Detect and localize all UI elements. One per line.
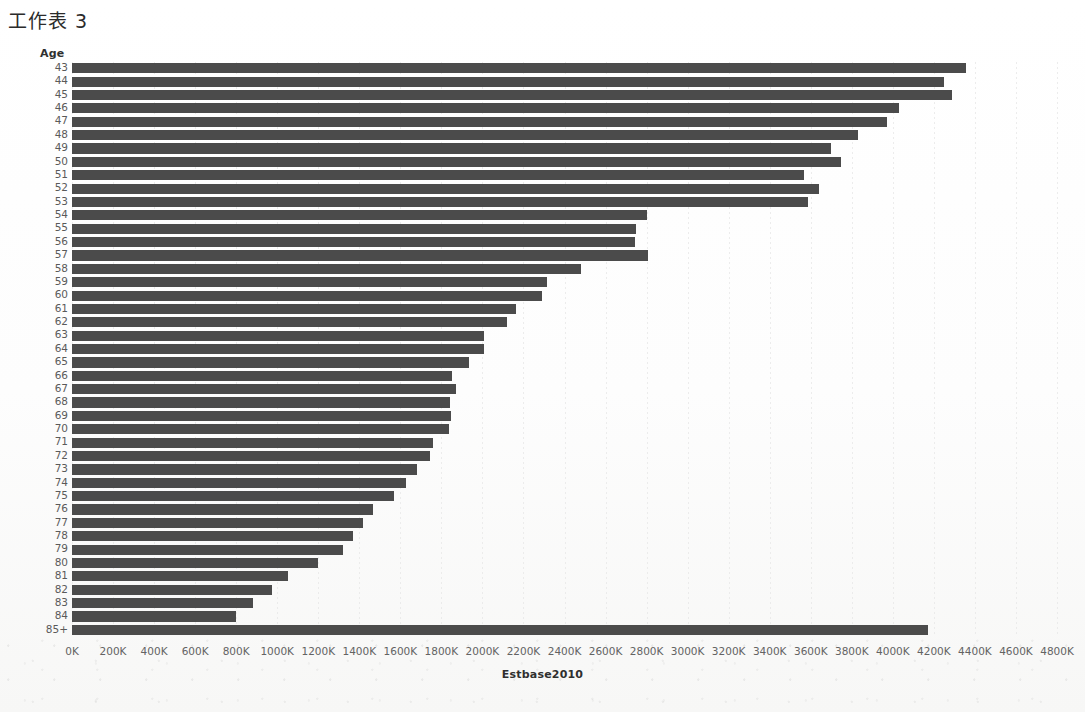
bar[interactable] xyxy=(72,277,547,287)
x-axis-tick-label: 1600K xyxy=(384,645,418,657)
bar-row[interactable]: 51 xyxy=(72,169,1057,182)
bar[interactable] xyxy=(72,143,831,153)
x-axis-title: Estbase2010 xyxy=(0,668,1085,681)
bar[interactable] xyxy=(72,224,636,234)
bar-row[interactable]: 84 xyxy=(72,610,1057,623)
bar[interactable] xyxy=(72,625,928,635)
bar[interactable] xyxy=(72,317,507,327)
bar[interactable] xyxy=(72,331,484,341)
bar[interactable] xyxy=(72,545,343,555)
bar[interactable] xyxy=(72,598,253,608)
bar-row[interactable]: 62 xyxy=(72,316,1057,329)
bar-row[interactable]: 77 xyxy=(72,517,1057,530)
y-axis-tick-label: 56 xyxy=(55,235,68,248)
bar-row[interactable]: 85+ xyxy=(72,624,1057,637)
bar-row[interactable]: 57 xyxy=(72,249,1057,262)
bar-chart: Age 434445464748495051525354555657585960… xyxy=(0,0,1085,712)
bar-row[interactable]: 52 xyxy=(72,182,1057,195)
bar-row[interactable]: 70 xyxy=(72,423,1057,436)
bar-row[interactable]: 47 xyxy=(72,115,1057,128)
bar-row[interactable]: 78 xyxy=(72,530,1057,543)
bar[interactable] xyxy=(72,184,819,194)
bar-row[interactable]: 46 xyxy=(72,102,1057,115)
bar[interactable] xyxy=(72,170,804,180)
bar[interactable] xyxy=(72,250,648,260)
bar[interactable] xyxy=(72,264,581,274)
bar[interactable] xyxy=(72,130,858,140)
bar-row[interactable]: 58 xyxy=(72,263,1057,276)
bar-row[interactable]: 69 xyxy=(72,410,1057,423)
bar[interactable] xyxy=(72,90,952,100)
bar[interactable] xyxy=(72,424,449,434)
y-axis-tick-label: 74 xyxy=(55,476,68,489)
bar[interactable] xyxy=(72,210,647,220)
bar[interactable] xyxy=(72,585,272,595)
bar[interactable] xyxy=(72,237,635,247)
bar-row[interactable]: 44 xyxy=(72,75,1057,88)
bar[interactable] xyxy=(72,464,417,474)
y-axis-tick-label: 67 xyxy=(55,382,68,395)
bar-row[interactable]: 59 xyxy=(72,276,1057,289)
bar[interactable] xyxy=(72,77,944,87)
y-axis-tick-label: 49 xyxy=(55,141,68,154)
bar-row[interactable]: 71 xyxy=(72,436,1057,449)
bar-row[interactable]: 50 xyxy=(72,156,1057,169)
bar-row[interactable]: 72 xyxy=(72,450,1057,463)
bar-row[interactable]: 63 xyxy=(72,329,1057,342)
bar-row[interactable]: 61 xyxy=(72,303,1057,316)
bar[interactable] xyxy=(72,478,406,488)
bar-row[interactable]: 64 xyxy=(72,343,1057,356)
bar-row[interactable]: 45 xyxy=(72,89,1057,102)
bar[interactable] xyxy=(72,518,363,528)
bar-row[interactable]: 56 xyxy=(72,236,1057,249)
bar-row[interactable]: 73 xyxy=(72,463,1057,476)
bar-row[interactable]: 54 xyxy=(72,209,1057,222)
bar-row[interactable]: 83 xyxy=(72,597,1057,610)
bar[interactable] xyxy=(72,571,288,581)
y-axis-tick-label: 54 xyxy=(55,208,68,221)
bar-row[interactable]: 75 xyxy=(72,490,1057,503)
bar[interactable] xyxy=(72,291,542,301)
bar-row[interactable]: 81 xyxy=(72,570,1057,583)
y-axis-tick-label: 73 xyxy=(55,462,68,475)
bar-row[interactable]: 53 xyxy=(72,196,1057,209)
bar[interactable] xyxy=(72,451,430,461)
bar-row[interactable]: 48 xyxy=(72,129,1057,142)
bar-row[interactable]: 65 xyxy=(72,356,1057,369)
y-axis-tick-label: 84 xyxy=(55,609,68,622)
bar[interactable] xyxy=(72,157,841,167)
bar-row[interactable]: 74 xyxy=(72,477,1057,490)
x-axis-tick-label: 3200K xyxy=(712,645,746,657)
bar[interactable] xyxy=(72,611,236,621)
bar[interactable] xyxy=(72,397,450,407)
bar-row[interactable]: 67 xyxy=(72,383,1057,396)
bar[interactable] xyxy=(72,411,451,421)
bar-row[interactable]: 66 xyxy=(72,370,1057,383)
bar[interactable] xyxy=(72,531,353,541)
bar[interactable] xyxy=(72,371,452,381)
bar[interactable] xyxy=(72,304,516,314)
bar-row[interactable]: 43 xyxy=(72,62,1057,75)
bar[interactable] xyxy=(72,344,484,354)
bar-row[interactable]: 82 xyxy=(72,584,1057,597)
bar[interactable] xyxy=(72,558,318,568)
bar-row[interactable]: 68 xyxy=(72,396,1057,409)
bar[interactable] xyxy=(72,117,887,127)
bar-row[interactable]: 76 xyxy=(72,503,1057,516)
bar-row[interactable]: 60 xyxy=(72,289,1057,302)
bar[interactable] xyxy=(72,384,456,394)
y-axis-tick-label: 69 xyxy=(55,409,68,422)
bar[interactable] xyxy=(72,504,373,514)
bar[interactable] xyxy=(72,197,808,207)
bar[interactable] xyxy=(72,63,966,73)
y-axis-tick-label: 58 xyxy=(55,262,68,275)
bar-row[interactable]: 79 xyxy=(72,543,1057,556)
bar-row[interactable]: 80 xyxy=(72,557,1057,570)
bar-row[interactable]: 55 xyxy=(72,222,1057,235)
bar[interactable] xyxy=(72,357,469,367)
bar[interactable] xyxy=(72,438,433,448)
bar[interactable] xyxy=(72,491,394,501)
y-axis-title: Age xyxy=(40,47,64,60)
bar-row[interactable]: 49 xyxy=(72,142,1057,155)
bar[interactable] xyxy=(72,103,899,113)
